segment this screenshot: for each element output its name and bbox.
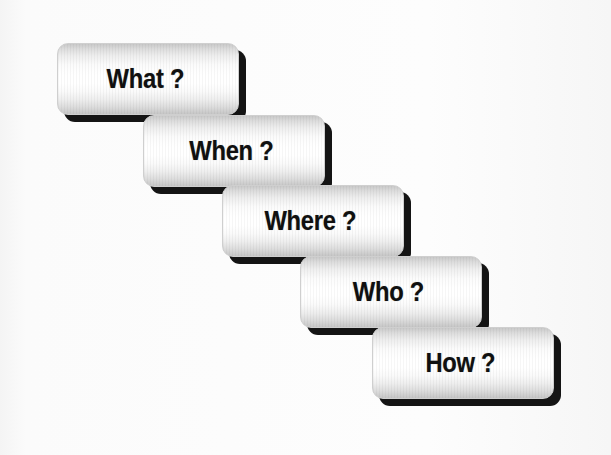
step-label-how: How ? xyxy=(384,348,542,379)
step-label-who: Who ? xyxy=(312,277,470,308)
step-face: When ? xyxy=(143,115,325,187)
step-button-who[interactable]: Who ? xyxy=(300,256,482,328)
step-button-when[interactable]: When ? xyxy=(143,115,325,187)
step-face: Where ? xyxy=(222,185,404,257)
step-face: What ? xyxy=(57,43,239,115)
step-face: Who ? xyxy=(300,256,482,328)
figure-canvas: What ? When ? Where ? Who ? How ? xyxy=(0,0,611,455)
step-label-what: What ? xyxy=(69,64,227,95)
step-button-how[interactable]: How ? xyxy=(372,327,554,399)
step-label-when: When ? xyxy=(155,136,313,167)
step-label-where: Where ? xyxy=(234,206,392,237)
step-button-what[interactable]: What ? xyxy=(57,43,239,115)
step-button-where[interactable]: Where ? xyxy=(222,185,404,257)
step-face: How ? xyxy=(372,327,554,399)
